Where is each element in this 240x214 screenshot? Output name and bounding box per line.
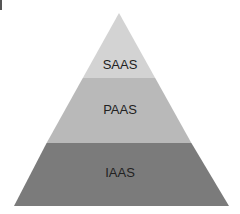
layer-iaas-label: IAAS bbox=[0, 165, 240, 181]
layer-paas-label: PAAS bbox=[0, 102, 240, 118]
pyramid-diagram: SAAS PAAS IAAS bbox=[0, 0, 240, 214]
layer-saas-label: SAAS bbox=[0, 57, 240, 73]
